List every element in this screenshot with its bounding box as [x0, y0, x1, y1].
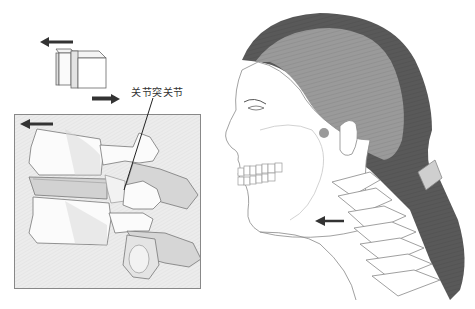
- facet-joint-label: 关节突关节: [131, 84, 184, 99]
- vertebrae-illustration: [15, 115, 200, 288]
- arrow-left-icon: [40, 37, 73, 47]
- head-neck-svg: [220, 0, 475, 309]
- head-profile-illustration: [220, 0, 475, 309]
- neck-outline: [260, 232, 356, 300]
- vertebra-box: [14, 114, 201, 289]
- arrow-right-icon: [92, 93, 122, 105]
